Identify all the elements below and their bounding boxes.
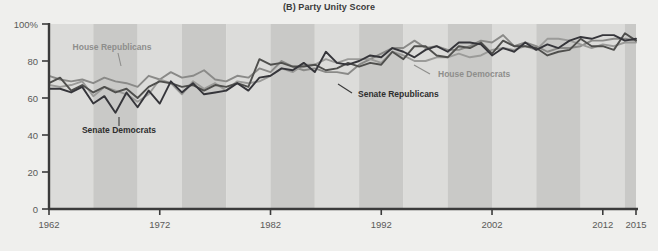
y-tick-label: 100%: [14, 19, 39, 30]
background-band: [226, 24, 270, 209]
x-tick-label: 2015: [625, 219, 646, 230]
party-unity-chart: (B) Party Unity Score 100%80604020019621…: [0, 0, 658, 251]
background-band: [182, 24, 226, 209]
background-band: [271, 24, 315, 209]
background-band: [625, 24, 636, 209]
y-tick-label: 80: [27, 56, 38, 67]
x-tick-label: 2012: [592, 219, 613, 230]
series-label-house-democrats: House Democrats: [438, 69, 511, 79]
series-label-senate-republicans: Senate Republicans: [358, 89, 439, 99]
y-tick-label: 0: [33, 204, 38, 215]
x-tick-label: 1992: [371, 219, 392, 230]
background-band: [581, 24, 625, 209]
y-tick-label: 20: [27, 167, 38, 178]
chart-svg: 100%806040200196219721982199220022012201…: [0, 0, 658, 251]
x-tick-label: 1982: [260, 219, 281, 230]
x-tick-label: 2002: [481, 219, 502, 230]
x-tick-label: 1972: [149, 219, 170, 230]
y-tick-label: 60: [27, 93, 38, 104]
series-label-senate-democrats: Senate Democrats: [82, 125, 156, 135]
series-label-house-republicans: House Republicans: [73, 42, 152, 52]
y-tick-label: 40: [27, 130, 38, 141]
background-band: [315, 24, 359, 209]
background-band: [359, 24, 403, 209]
x-tick-label: 1962: [38, 219, 59, 230]
